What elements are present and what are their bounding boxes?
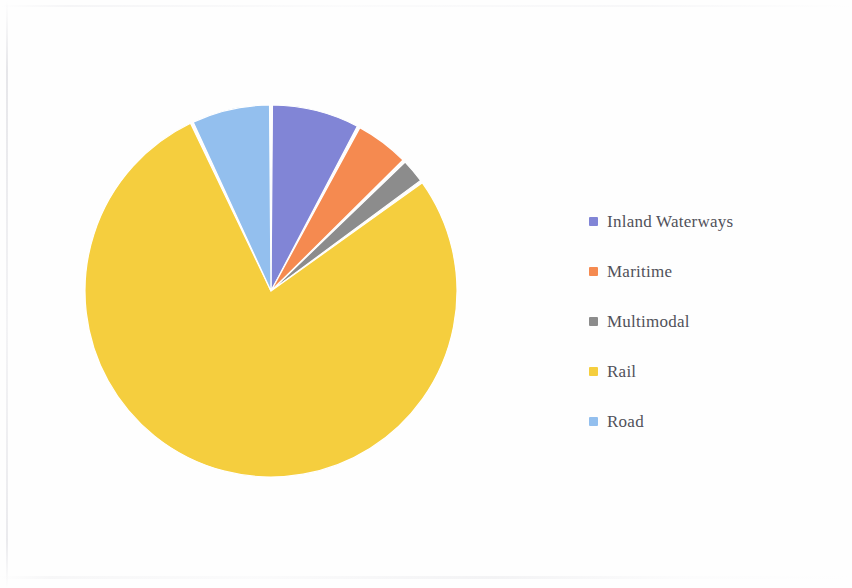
legend-swatch-rail <box>589 367 598 376</box>
legend-item-multimodal[interactable]: Multimodal <box>589 296 829 346</box>
pie-chart-figure: Inland Waterways Maritime Multimodal Rai… <box>0 0 852 588</box>
legend-item-maritime[interactable]: Maritime <box>589 246 829 296</box>
pie-slice-group <box>85 105 457 477</box>
legend-swatch-road <box>589 417 598 426</box>
legend-swatch-maritime <box>589 267 598 276</box>
legend-label-maritime: Maritime <box>607 262 672 281</box>
pie-chart-plot-area <box>71 91 471 491</box>
legend-item-inland-waterways[interactable]: Inland Waterways <box>589 196 829 246</box>
pie-chart-svg <box>71 91 471 491</box>
legend-item-road[interactable]: Road <box>589 396 829 446</box>
legend-item-rail[interactable]: Rail <box>589 346 829 396</box>
chart-legend: Inland Waterways Maritime Multimodal Rai… <box>589 196 829 446</box>
legend-label-rail: Rail <box>607 362 636 381</box>
legend-label-road: Road <box>607 412 644 431</box>
legend-swatch-multimodal <box>589 317 598 326</box>
legend-label-inland-waterways: Inland Waterways <box>607 212 733 231</box>
legend-label-multimodal: Multimodal <box>607 312 690 331</box>
legend-swatch-inland-waterways <box>589 217 598 226</box>
